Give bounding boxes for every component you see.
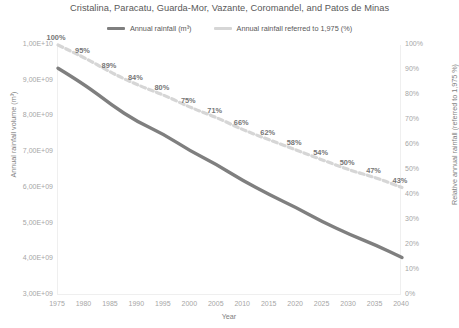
y-axis-right-tick-label: 60% (405, 140, 419, 147)
x-axis-tick-label: 2030 (340, 300, 356, 307)
x-axis-tick-label: 2020 (287, 300, 303, 307)
x-axis-tick-label: 2025 (314, 300, 330, 307)
data-label: 100% (47, 33, 66, 42)
y-axis-right-tick-label: 20% (405, 240, 419, 247)
x-axis-tick-label: 1995 (155, 300, 171, 307)
y-axis-right-tick-label: 80% (405, 90, 419, 97)
y-axis-left-tick-label: 8,00E+09 (23, 111, 53, 118)
data-label: 54% (313, 148, 328, 157)
chart-container: Cristalina, Paracatu, Guarda-Mor, Vazant… (0, 0, 459, 328)
x-axis-tick-label: 1975 (49, 300, 65, 307)
legend-item-relative-rainfall[interactable]: Annual rainfall referred to 1,975 (%) (214, 24, 353, 33)
y-axis-left-tick-label: 9,00E+09 (23, 76, 53, 83)
y-axis-left-tick-label: 4,00E+09 (23, 254, 53, 261)
data-label: 95% (75, 45, 90, 54)
y-axis-left-tick-label: 6,00E+09 (23, 183, 53, 190)
y-axis-right-ticks: 100%90%80%70%60%50%40%30%20%10%0% (405, 45, 435, 295)
x-axis-tick-label: 2015 (261, 300, 277, 307)
plot-area (57, 45, 401, 295)
x-axis-tick-label: 2005 (208, 300, 224, 307)
x-axis-tick-label: 1985 (102, 300, 118, 307)
y-axis-right-tick-label: 50% (405, 165, 419, 172)
legend-item-annual-rainfall[interactable]: Annual rainfall (m³) (107, 24, 192, 33)
data-label: 58% (287, 138, 302, 147)
y-axis-right-tick-label: 30% (405, 215, 419, 222)
data-label: 66% (234, 118, 249, 127)
y-axis-right-tick-label: 70% (405, 115, 419, 122)
legend-label-annual-rainfall: Annual rainfall (m³) (130, 24, 192, 33)
x-axis-tick-label: 2010 (234, 300, 250, 307)
y-axis-right-tick-label: 0% (405, 290, 415, 297)
data-label: 84% (128, 73, 143, 82)
x-axis-tick-label: 2040 (393, 300, 409, 307)
data-label: 71% (207, 105, 222, 114)
legend-swatch-solid-icon (107, 27, 125, 30)
y-axis-right-tick-label: 40% (405, 190, 419, 197)
data-label: 47% (366, 165, 381, 174)
y-axis-left-tick-label: 7,00E+09 (23, 147, 53, 154)
x-axis-tick-label: 1990 (129, 300, 145, 307)
y-axis-left-tick-label: 5,00E+09 (23, 219, 53, 226)
data-label: 43% (393, 175, 408, 184)
x-axis-tick-label: 2000 (182, 300, 198, 307)
chart-legend: Annual rainfall (m³) Annual rainfall ref… (0, 24, 459, 33)
data-label: 62% (260, 128, 275, 137)
data-label: 89% (102, 60, 117, 69)
legend-swatch-dashed-icon (214, 27, 232, 30)
y-axis-right-tick-label: 100% (405, 40, 423, 47)
chart-title: Cristalina, Paracatu, Guarda-Mor, Vazant… (0, 3, 459, 13)
y-axis-left-tick-label: 3,00E+09 (23, 290, 53, 297)
y-axis-right-tick-label: 10% (405, 265, 419, 272)
plot-svg (58, 45, 402, 295)
x-axis-tick-label: 1980 (76, 300, 92, 307)
y-axis-right-tick-label: 90% (405, 65, 419, 72)
x-axis-title: Year (57, 312, 401, 321)
y-axis-right-title: Relative annual rainfall (referred to 1,… (450, 45, 459, 225)
legend-label-relative-rainfall: Annual rainfall referred to 1,975 (%) (237, 24, 353, 33)
data-label: 50% (340, 158, 355, 167)
x-axis-tick-label: 2035 (367, 300, 383, 307)
data-label: 75% (181, 95, 196, 104)
data-label: 80% (154, 83, 169, 92)
y-axis-left-title: Annual rainfall volume (m³) (9, 60, 18, 210)
